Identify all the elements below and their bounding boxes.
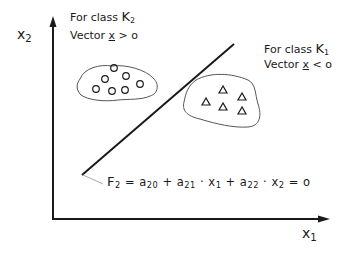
eq-equals-zero: = o bbox=[284, 175, 310, 189]
class-k1-sub: 1 bbox=[324, 48, 329, 57]
class-k2-circles bbox=[93, 65, 144, 95]
eq-a21-sub: 21 bbox=[184, 180, 196, 190]
y-axis-label: x2 bbox=[17, 28, 32, 45]
class-k1-triangles bbox=[202, 86, 246, 114]
class-k2-condition-suffix: > o bbox=[115, 29, 138, 42]
eq-a20: a bbox=[139, 175, 147, 189]
class-k2-condition: Vector x > o bbox=[70, 29, 138, 42]
eq-plus-2: + bbox=[221, 175, 239, 189]
y-axis-arrow-icon bbox=[50, 16, 57, 27]
class-k1-condition-suffix: < o bbox=[309, 58, 332, 71]
class-k1-symbol: K bbox=[316, 41, 325, 56]
class-k1-cluster-outline bbox=[184, 74, 260, 127]
eq-a22-sub: 22 bbox=[247, 180, 259, 190]
class-k1-title: For class K1 bbox=[264, 42, 329, 59]
class-k2-symbol: K bbox=[122, 9, 131, 24]
class-k2-title-prefix: For class bbox=[70, 11, 122, 24]
class-k1-condition-prefix: Vector bbox=[264, 58, 303, 71]
class-k1-condition: Vector x < o bbox=[264, 58, 332, 71]
decision-boundary-line bbox=[82, 44, 234, 175]
decision-boundary-diagram: x2 x1 For class K2 Vector x > o For clas… bbox=[0, 0, 357, 253]
equation-leader-line bbox=[83, 175, 103, 184]
class-k2-cluster-outline bbox=[77, 66, 157, 101]
x-axis-label-sub: 1 bbox=[310, 232, 316, 243]
boundary-equation: F2 = a20 + a21 · x1 + a22 · x2 = o bbox=[107, 175, 310, 192]
eq-F: F bbox=[107, 174, 115, 189]
diagram-graphics bbox=[0, 0, 357, 253]
eq-dot-2: · bbox=[259, 175, 271, 189]
eq-equals-1: = bbox=[121, 175, 139, 189]
eq-plus-1: + bbox=[158, 175, 176, 189]
class-k2-title: For class K2 bbox=[70, 10, 135, 27]
class-k2-sub: 2 bbox=[130, 16, 135, 25]
class-k1-title-prefix: For class bbox=[264, 43, 316, 56]
x-axis-label: x1 bbox=[302, 227, 317, 244]
y-axis-label-sub: 2 bbox=[25, 33, 31, 44]
eq-x2: x bbox=[271, 175, 278, 189]
eq-x1: x bbox=[208, 175, 215, 189]
class-k2-condition-prefix: Vector bbox=[70, 29, 109, 42]
eq-dot-1: · bbox=[196, 175, 208, 189]
x-axis-arrow-icon bbox=[318, 216, 330, 223]
eq-a20-sub: 20 bbox=[147, 180, 159, 190]
